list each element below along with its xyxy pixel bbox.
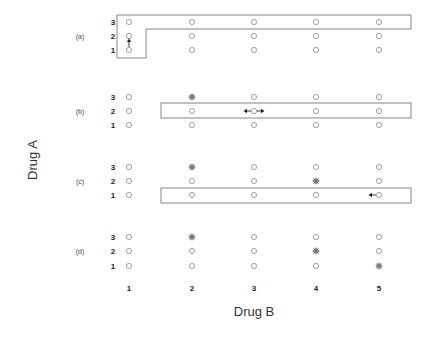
dose-escalation-diagram: Drug A Drug B 1 2 3 4 5 (a) 3 2 1 (b) 3 … bbox=[0, 0, 432, 338]
svg-text:1: 1 bbox=[111, 191, 116, 200]
svg-text:3: 3 bbox=[111, 163, 116, 172]
svg-text:(b): (b) bbox=[76, 108, 85, 116]
svg-text:1: 1 bbox=[111, 262, 116, 271]
arrow-left-icon bbox=[369, 193, 377, 197]
svg-text:3: 3 bbox=[252, 284, 257, 293]
svg-text:4: 4 bbox=[314, 284, 319, 293]
panel-b: (b) 3 2 1 bbox=[76, 93, 411, 130]
selection-box-l-shape bbox=[117, 15, 411, 58]
svg-text:2: 2 bbox=[111, 107, 116, 116]
svg-text:(a): (a) bbox=[76, 33, 85, 41]
panel-d: (d) 3 2 1 bbox=[76, 233, 383, 271]
svg-text:2: 2 bbox=[190, 284, 195, 293]
svg-text:3: 3 bbox=[111, 93, 116, 102]
svg-text:5: 5 bbox=[377, 284, 382, 293]
column-labels: 1 2 3 4 5 bbox=[127, 284, 382, 293]
svg-text:1: 1 bbox=[111, 121, 116, 130]
arrow-left-right-icon bbox=[244, 109, 265, 113]
selection-box-row-2 bbox=[161, 103, 411, 118]
arrow-up-icon bbox=[127, 39, 131, 48]
svg-text:2: 2 bbox=[111, 247, 116, 256]
svg-text:2: 2 bbox=[111, 177, 116, 186]
svg-text:1: 1 bbox=[127, 284, 132, 293]
panel-a: (a) 3 2 1 bbox=[76, 15, 411, 58]
svg-text:(d): (d) bbox=[76, 248, 85, 256]
svg-text:3: 3 bbox=[111, 18, 116, 27]
svg-text:2: 2 bbox=[111, 32, 116, 41]
selection-box-row-1 bbox=[161, 188, 411, 203]
x-axis-label: Drug B bbox=[234, 304, 274, 319]
y-axis-label: Drug A bbox=[25, 140, 40, 180]
svg-text:(c): (c) bbox=[76, 178, 84, 186]
svg-text:3: 3 bbox=[111, 233, 116, 242]
panel-c: (c) 3 2 1 bbox=[76, 163, 411, 203]
svg-text:1: 1 bbox=[111, 46, 116, 55]
